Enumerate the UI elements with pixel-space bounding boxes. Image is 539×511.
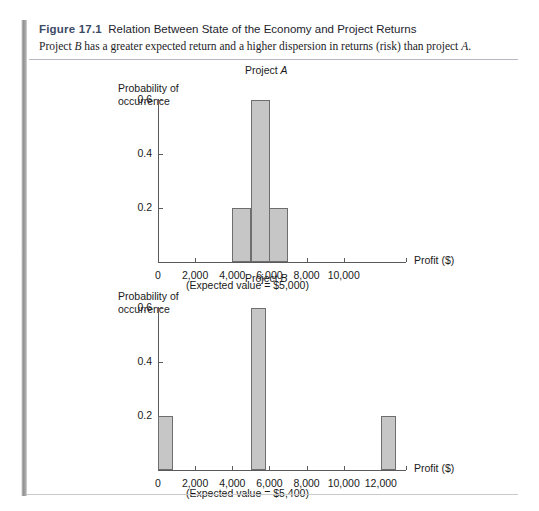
y-tick — [159, 308, 163, 309]
bar — [158, 416, 173, 470]
x-tick-label: 12,000 — [351, 477, 411, 489]
x-axis-line — [158, 262, 406, 263]
y-axis-line — [158, 99, 159, 263]
subtitle-part-1: Project — [39, 40, 74, 52]
chart-project-a: Project A Probability of occurrence 0.20… — [21, 64, 518, 279]
x-tick — [195, 466, 196, 470]
x-axis-endcap — [406, 258, 407, 262]
y-tick-label: 0.4 — [116, 355, 152, 367]
y-tick-label: 0.2 — [116, 409, 152, 421]
y-tick-label: 0.2 — [116, 201, 152, 213]
chart-a-plot-area: 0.20.40.602,0004,0006,0008,00010,000 — [21, 64, 518, 279]
x-axis-line — [158, 470, 406, 471]
bar — [269, 208, 288, 262]
chart-b-xlabel: Profit ($) — [414, 462, 454, 474]
y-tick-label: 0.6 — [116, 301, 152, 313]
bar — [251, 100, 270, 262]
x-tick — [307, 258, 308, 262]
figure-box: Figure 17.1 Relation Between State of th… — [21, 20, 518, 496]
y-tick — [159, 154, 163, 155]
bar — [381, 416, 396, 470]
x-tick — [269, 466, 270, 470]
figure-bottom-rule — [27, 494, 518, 495]
x-tick — [195, 258, 196, 262]
y-tick-label: 0.4 — [116, 147, 152, 159]
subtitle-part-2: has a greater expected return and a high… — [81, 40, 461, 52]
x-tick — [232, 466, 233, 470]
y-tick — [159, 362, 163, 363]
x-axis-endcap — [406, 466, 407, 470]
y-tick — [159, 100, 163, 101]
figure-number: Figure 17.1 — [39, 23, 102, 35]
bar — [232, 208, 251, 262]
figure-title: Relation Between State of the Economy an… — [108, 23, 416, 35]
x-tick — [344, 466, 345, 470]
chart-project-b: Project B Probability of occurrence 0.20… — [21, 272, 518, 494]
caption-heading: Figure 17.1 Relation Between State of th… — [39, 23, 416, 35]
chart-b-expected-value: (Expected value = $5,400) — [186, 487, 309, 499]
caption-subtitle: Project B has a greater expected return … — [39, 40, 471, 52]
chart-a-xlabel: Profit ($) — [414, 254, 454, 266]
chart-b-plot-area: 0.20.40.602,0004,0006,0008,00010,00012,0… — [21, 272, 518, 494]
y-tick — [159, 208, 163, 209]
figure-caption: Figure 17.1 Relation Between State of th… — [29, 20, 518, 60]
subtitle-part-3: . — [468, 40, 471, 52]
y-tick-label: 0.6 — [116, 93, 152, 105]
bar — [251, 308, 266, 470]
x-tick — [344, 258, 345, 262]
x-tick — [307, 466, 308, 470]
